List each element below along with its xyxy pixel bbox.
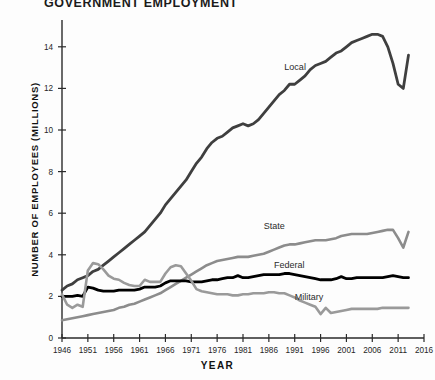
series-label-state: State (264, 221, 285, 231)
x-tick-label: 1991 (286, 346, 305, 355)
x-tick-label: 1961 (130, 346, 149, 355)
y-tick-label: 14 (44, 43, 54, 52)
x-tick-label: 2011 (389, 346, 407, 355)
series-line-federal (62, 274, 408, 297)
x-tick-label: 1946 (53, 346, 72, 355)
series-labels-group: LocalStateFederalMilitary (264, 62, 324, 302)
y-tick-label: 6 (48, 209, 53, 218)
y-tick-label: 0 (48, 334, 53, 343)
y-tick-label: 12 (44, 84, 54, 93)
y-tick-label: 8 (48, 168, 53, 177)
x-tick-label: 1956 (105, 346, 124, 355)
x-tick-label: 1966 (156, 346, 175, 355)
series-line-local (62, 34, 408, 290)
x-tick-label: 1976 (208, 346, 227, 355)
x-tick-label: 1981 (234, 346, 253, 355)
y-tick-label: 10 (44, 126, 54, 135)
x-tick-label: 1986 (260, 346, 279, 355)
series-label-federal: Federal (274, 260, 305, 270)
series-line-military (62, 263, 408, 314)
x-tick-label: 2001 (337, 346, 356, 355)
x-tick-label: 1951 (79, 346, 98, 355)
series-label-military: Military (295, 292, 324, 302)
series-line-state (62, 230, 408, 320)
data-series-group (62, 34, 408, 320)
x-tick-label: 1971 (182, 346, 201, 355)
y-tick-label: 2 (48, 292, 53, 301)
x-tick-label: 2016 (415, 346, 434, 355)
x-axis-ticks: 1946195119561961196619711976198119861991… (53, 334, 434, 355)
line-chart-plot: 02468101214 1946195119561961196619711976… (0, 0, 435, 380)
series-label-local: Local (284, 62, 306, 72)
x-tick-label: 2006 (363, 346, 382, 355)
chart-figure: GOVERNMENT EMPLOYMENT NUMBER OF EMPLOYEE… (0, 0, 435, 380)
y-tick-label: 4 (48, 251, 53, 260)
x-tick-label: 1996 (311, 346, 330, 355)
